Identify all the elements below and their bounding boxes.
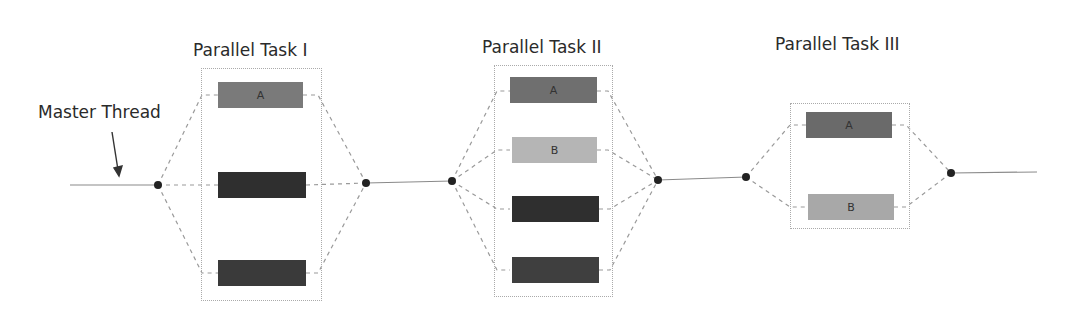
group-title-2: Parallel Task II (482, 37, 601, 57)
task-box: B (512, 137, 597, 163)
group-title-1: Parallel Task I (193, 40, 307, 60)
task-box: B (808, 194, 894, 220)
task-box (218, 260, 306, 286)
group-title-3: Parallel Task III (775, 34, 899, 54)
master-thread-label: Master Thread (38, 102, 161, 122)
task-box: A (806, 112, 892, 138)
task-box (218, 172, 306, 198)
task-box: A (218, 82, 303, 108)
task-box (512, 257, 599, 283)
task-box (512, 196, 599, 222)
task-box: A (510, 77, 597, 103)
